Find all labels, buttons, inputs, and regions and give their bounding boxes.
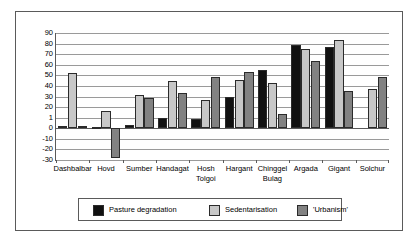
x-axis-tick — [356, 160, 357, 163]
chart-legend: Pasture degradationSedentarisation'Urban… — [78, 198, 342, 221]
y-axis-tick-labels: 908070605040302010-10-20-30 — [16, 33, 53, 160]
y-axis-tick-label: -10 — [42, 135, 53, 143]
bar-group — [56, 33, 89, 160]
legend-label: 'Urbanism' — [313, 206, 348, 214]
bar — [301, 49, 310, 128]
bar-group — [89, 33, 122, 160]
bar — [158, 118, 167, 129]
x-axis-tick-label: Gigant — [328, 164, 350, 174]
x-axis-tick — [289, 160, 290, 163]
x-axis-tick-label: Dashbalbar — [53, 164, 91, 174]
bar-group — [223, 33, 256, 160]
bar-group — [356, 33, 389, 160]
x-axis-tick — [123, 160, 124, 163]
x-axis-tick — [322, 160, 323, 163]
x-axis-tick-label: Chinggel Bulag — [258, 164, 288, 183]
legend-label: Pasture degradation — [109, 206, 177, 214]
chart-frame: 908070605040302010-10-20-30 DashbalbarHo… — [15, 11, 403, 231]
bar — [135, 95, 144, 128]
bar — [344, 91, 353, 128]
x-axis-tick — [223, 160, 224, 163]
bar — [235, 80, 244, 129]
x-axis-tick-label: Handagat — [156, 164, 189, 174]
x-axis-tick-label: Solchur — [360, 164, 385, 174]
x-axis-tick — [256, 160, 257, 163]
bar — [278, 114, 287, 128]
y-axis-tick-label: 70 — [45, 50, 53, 58]
x-axis-tick — [56, 160, 57, 163]
y-axis-tick-label: 0 — [49, 125, 53, 133]
x-axis-tick-label: Hosh Tolgoi — [196, 164, 216, 183]
y-axis-tick-label: 40 — [45, 82, 53, 90]
bar — [311, 61, 320, 129]
bar — [211, 77, 220, 128]
plot-area — [56, 33, 389, 160]
x-axis-tick-labels: DashbalbarHovdSumberHandagatHosh TolgoiH… — [56, 164, 389, 194]
bar — [334, 40, 343, 128]
bar — [92, 127, 101, 129]
y-axis-tick-label: 50 — [45, 72, 53, 80]
y-axis-tick-label: 80 — [45, 40, 53, 48]
legend-swatch — [93, 205, 104, 216]
bar — [225, 97, 234, 129]
bar — [244, 72, 253, 128]
bar — [201, 100, 210, 129]
bar-group — [123, 33, 156, 160]
bar-group — [289, 33, 322, 160]
bar — [101, 111, 110, 128]
legend-item: 'Urbanism' — [297, 204, 348, 216]
bar — [78, 126, 87, 128]
x-axis-tick — [388, 160, 389, 163]
bar — [111, 128, 120, 158]
bar — [125, 125, 134, 128]
y-axis-tick-label: 30 — [45, 93, 53, 101]
bar — [325, 47, 334, 128]
bar — [144, 98, 153, 129]
y-axis-tick-label: 20 — [45, 103, 53, 111]
x-axis-tick-label: Sumber — [126, 164, 152, 174]
bar — [368, 89, 377, 128]
x-axis-tick-label: Hargant — [226, 164, 253, 174]
x-axis-tick-label: Argada — [294, 164, 318, 174]
bar — [58, 126, 67, 128]
bar — [378, 77, 387, 128]
x-axis-tick — [89, 160, 90, 163]
legend-label: Sedentarisation — [225, 206, 277, 214]
bar-group — [189, 33, 222, 160]
bar — [168, 81, 177, 129]
x-axis-tick-label: Hovd — [97, 164, 115, 174]
bar — [258, 70, 267, 128]
bar — [191, 119, 200, 129]
bar-group — [256, 33, 289, 160]
bar-group — [322, 33, 355, 160]
bar — [291, 45, 300, 129]
y-axis-tick-label: 1 — [49, 114, 53, 122]
bar — [68, 73, 77, 128]
bar-group — [156, 33, 189, 160]
bar — [268, 83, 277, 129]
x-axis-tick — [156, 160, 157, 163]
legend-swatch — [297, 205, 308, 216]
legend-swatch — [209, 205, 220, 216]
legend-item: Sedentarisation — [209, 204, 277, 216]
y-axis-tick-label: 90 — [45, 29, 53, 37]
y-axis-tick-label: 60 — [45, 61, 53, 69]
legend-item: Pasture degradation — [93, 204, 177, 216]
x-axis-tick — [189, 160, 190, 163]
y-axis-tick-label: -20 — [42, 146, 53, 154]
y-axis-tick-label: -30 — [42, 156, 53, 164]
bar — [178, 93, 187, 128]
